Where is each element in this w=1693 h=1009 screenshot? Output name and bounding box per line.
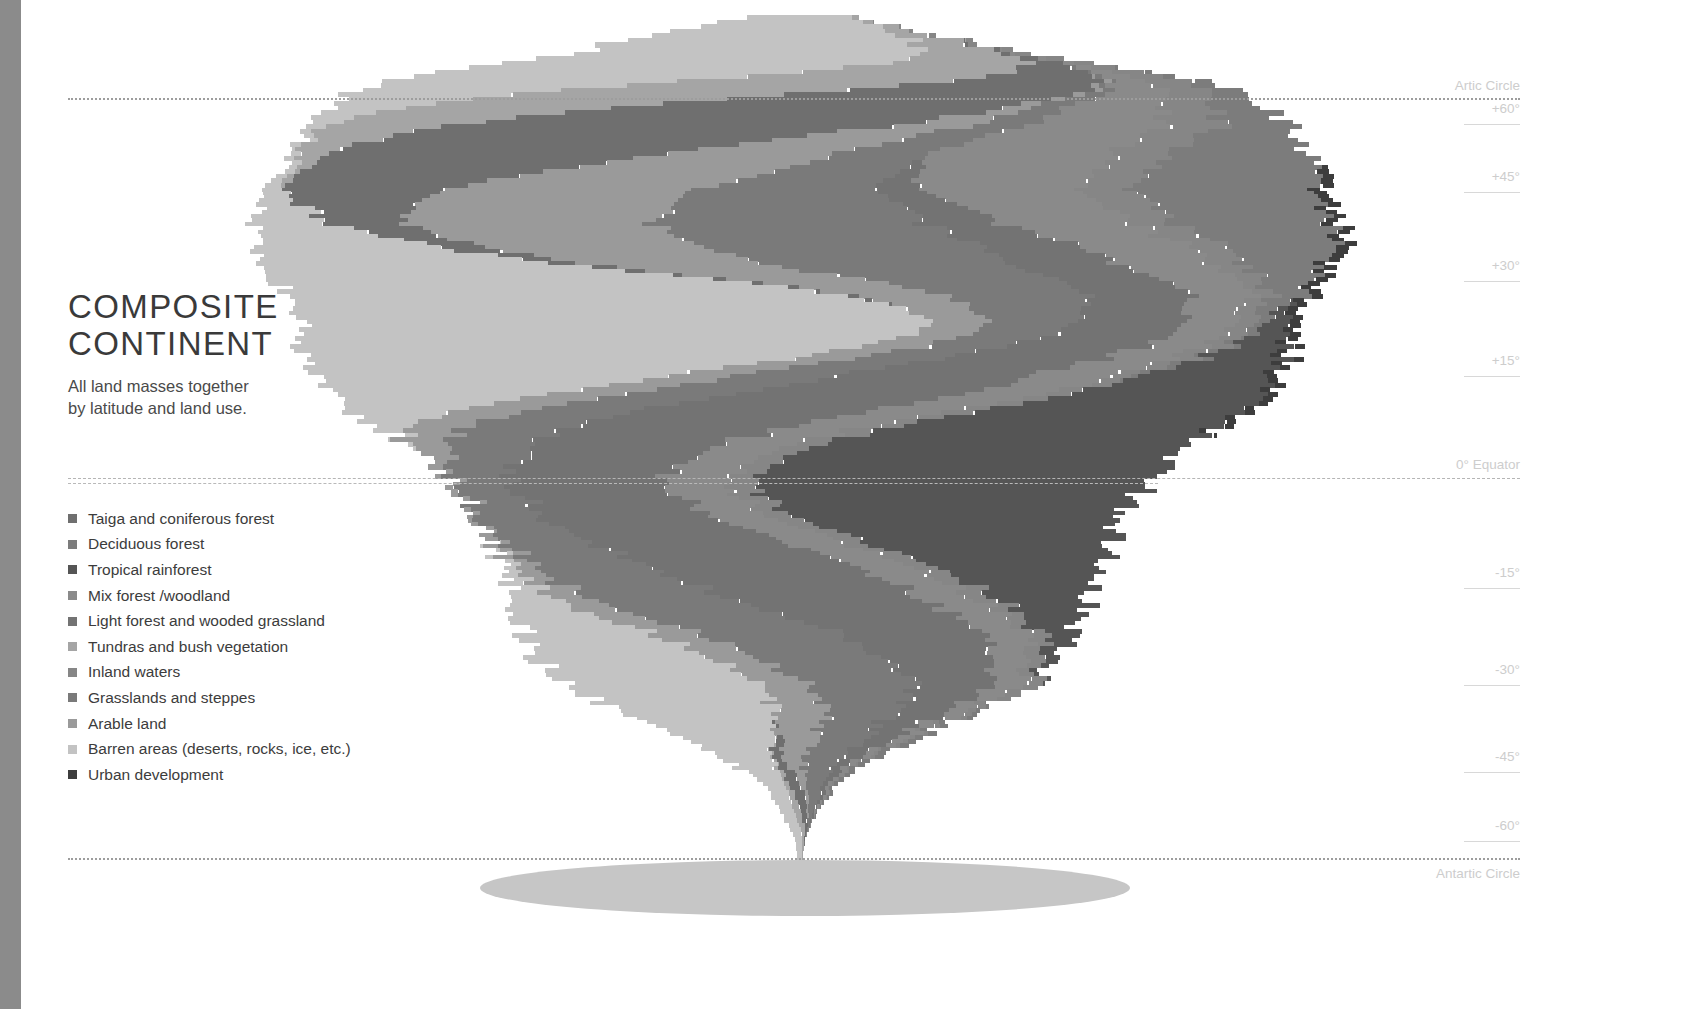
band-sliver: [1181, 323, 1235, 328]
band-sliver: [995, 685, 1026, 690]
band-sliver: [994, 115, 1043, 120]
band-sliver: [817, 804, 819, 809]
band-sliver: [447, 460, 521, 465]
band-sliver: [271, 178, 282, 183]
band-sliver: [799, 823, 805, 828]
band-sliver: [797, 442, 832, 447]
band-sliver: [920, 728, 928, 733]
band-sliver: [648, 633, 697, 638]
band-sliver: [806, 832, 807, 837]
band-sliver: [1327, 234, 1338, 239]
legend-item[interactable]: Urban development: [68, 762, 498, 788]
band-sliver: [770, 464, 1175, 469]
band-sliver: [1074, 188, 1129, 192]
band-sliver: [576, 590, 716, 595]
band-sliver: [822, 697, 913, 702]
legend-item[interactable]: Arable land: [68, 711, 498, 737]
band-sliver: [1020, 603, 1100, 608]
band-sliver: [784, 92, 1074, 97]
band-sliver: [955, 353, 1116, 358]
band-sliver: [1229, 120, 1293, 125]
band-sliver: [795, 795, 806, 800]
band-sliver: [671, 206, 907, 211]
legend-item[interactable]: Mix forest /woodland: [68, 583, 498, 609]
band-sliver: [818, 693, 915, 698]
band-sliver: [521, 562, 544, 566]
title-block: COMPOSITE CONTINENT All land masses toge…: [68, 288, 488, 419]
legend-item[interactable]: Light forest and wooded grassland: [68, 608, 498, 634]
band-sliver: [594, 612, 638, 617]
band-sliver: [487, 500, 547, 504]
legend-item[interactable]: Grasslands and steppes: [68, 685, 498, 711]
band-sliver: [934, 577, 959, 581]
band-sliver: [890, 581, 946, 586]
band-sliver: [1087, 194, 1144, 198]
legend-item-label: Light forest and wooded grassland: [88, 611, 325, 631]
band-sliver: [780, 809, 794, 814]
band-sliver: [973, 138, 1140, 143]
band-sliver: [808, 823, 810, 828]
legend-item[interactable]: Tundras and bush vegetation: [68, 634, 498, 660]
band-sliver: [534, 646, 696, 651]
axis-label-lat-plus-45: +45°: [1200, 169, 1520, 184]
band-sliver: [293, 198, 426, 203]
band-sliver: [511, 562, 521, 566]
band-sliver: [453, 469, 521, 474]
band-sliver: [774, 766, 778, 770]
band-sliver: [1321, 198, 1333, 203]
legend-item[interactable]: Tropical rainforest: [68, 557, 498, 583]
legend-item-label: Grasslands and steppes: [88, 688, 255, 708]
legend-swatch-icon: [68, 770, 77, 779]
band-sliver: [445, 485, 453, 489]
band-sliver: [778, 518, 805, 522]
band-sliver: [831, 704, 909, 709]
band-sliver: [628, 38, 922, 43]
legend-item[interactable]: Taiga and coniferous forest: [68, 506, 498, 532]
band-sliver: [511, 595, 551, 600]
band-sliver: [904, 138, 983, 143]
band-sliver: [784, 777, 796, 782]
band-sliver: [850, 562, 906, 566]
band-sliver: [911, 178, 1086, 183]
band-sliver: [995, 218, 1131, 223]
legend-item[interactable]: Deciduous forest: [68, 532, 498, 558]
band-sliver: [1232, 124, 1302, 129]
legend-item[interactable]: Inland waters: [68, 660, 498, 686]
band-sliver: [549, 522, 736, 526]
legend-item-label: Tundras and bush vegetation: [88, 637, 288, 657]
band-sliver: [1088, 178, 1142, 183]
band-sliver: [966, 585, 992, 590]
legend: Taiga and coniferous forestDeciduous for…: [68, 506, 498, 788]
band-sliver: [944, 603, 1000, 608]
band-sliver: [900, 169, 923, 174]
band-sliver: [531, 551, 628, 555]
band-sliver: [726, 277, 865, 282]
band-sliver: [451, 428, 554, 433]
axis-tick-lat-minus-45: [1464, 772, 1520, 773]
band-sliver: [612, 620, 657, 625]
band-sliver: [759, 261, 1008, 266]
band-sliver: [679, 401, 914, 406]
band-sliver: [878, 751, 886, 756]
band-sliver: [1117, 349, 1185, 354]
band-sliver: [927, 120, 993, 125]
band-sliver: [1190, 289, 1258, 294]
band-sliver: [986, 595, 1078, 600]
band-sliver: [422, 198, 684, 203]
legend-swatch-icon: [68, 591, 77, 600]
band-sliver: [1170, 361, 1181, 366]
legend-item[interactable]: Barren areas (deserts, rocks, ice, etc.): [68, 736, 498, 762]
band-sliver: [443, 437, 532, 442]
band-sliver: [416, 206, 674, 211]
band-sliver: [783, 672, 900, 677]
band-sliver: [910, 731, 924, 736]
band-sliver: [1110, 165, 1164, 170]
band-sliver: [747, 15, 857, 20]
band-sliver: [1091, 302, 1195, 307]
band-sliver: [737, 489, 767, 493]
band-sliver: [944, 415, 1228, 420]
band-sliver: [781, 708, 831, 713]
band-sliver: [688, 460, 758, 465]
band-sliver: [736, 392, 970, 397]
legend-swatch-icon: [68, 668, 77, 677]
